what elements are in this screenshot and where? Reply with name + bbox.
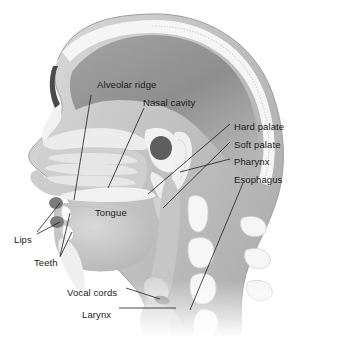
sphenoid-sinus bbox=[150, 136, 172, 160]
label-pharynx: Pharynx bbox=[234, 157, 270, 167]
label-larynx: Larynx bbox=[82, 310, 111, 320]
head-cross-section-illustration bbox=[0, 0, 337, 337]
anatomy-figure: Alveolar ridgeNasal cavityHard palateSof… bbox=[0, 0, 337, 337]
label-teeth: Teeth bbox=[34, 258, 58, 268]
label-tongue: Tongue bbox=[95, 208, 127, 218]
label-esophagus: Esophagus bbox=[234, 175, 282, 185]
upper-lip bbox=[49, 197, 63, 209]
nasal-turbinates bbox=[44, 153, 138, 186]
vertebra-c2 bbox=[188, 196, 208, 232]
label-hard-palate: Hard palate bbox=[234, 122, 284, 132]
label-lips: Lips bbox=[14, 235, 32, 245]
bottom-fade bbox=[0, 280, 337, 337]
vertebra-c3 bbox=[188, 238, 214, 268]
label-soft-palate: Soft palate bbox=[234, 140, 281, 150]
label-nasal-cavity: Nasal cavity bbox=[143, 98, 195, 108]
label-vocal-cords: Vocal cords bbox=[67, 288, 117, 298]
label-alveolar-ridge: Alveolar ridge bbox=[97, 80, 157, 90]
